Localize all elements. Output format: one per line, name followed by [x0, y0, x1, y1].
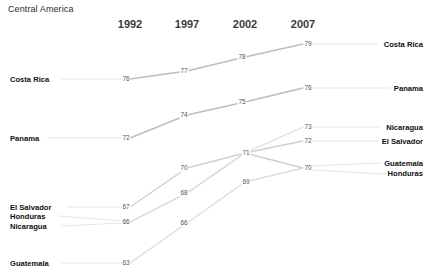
value-label-costa-rica-2002: 78 [237, 54, 246, 61]
series-label-left-costa-rica[interactable]: Costa Rica [10, 75, 49, 85]
leader-left-nicaragua [62, 223, 122, 226]
value-label-honduras-2007: 70 [303, 165, 312, 172]
value-label-el-salvador-1997: 70 [179, 165, 188, 172]
value-label-guatemala-1997: 66 [179, 220, 188, 227]
slope-lines-layer [0, 0, 431, 278]
value-label-panama-1997: 74 [179, 112, 188, 119]
value-label-panama-2002: 75 [237, 99, 246, 106]
leader-left-honduras [58, 216, 122, 221]
value-label-honduras-1997: 68 [179, 190, 188, 197]
series-label-right-nicaragua[interactable]: Nicaragua [386, 123, 423, 133]
series-label-right-el-salvador[interactable]: El Salvador [382, 137, 423, 147]
value-label-costa-rica-1997: 77 [179, 68, 188, 75]
series-label-left-guatemala[interactable]: Guatemala [10, 259, 49, 269]
leader-right-guatemala [312, 163, 381, 166]
series-label-left-honduras[interactable]: Honduras [10, 212, 45, 222]
leader-right-honduras [312, 170, 385, 174]
value-label-panama-2007: 76 [303, 85, 312, 92]
series-line-costa-rica [130, 44, 303, 79]
value-label-el-salvador-2007: 72 [303, 138, 312, 145]
series-line-panama [130, 88, 303, 138]
slope-chart: Central America 1992 1997 2002 2007 [0, 0, 431, 278]
series-label-right-panama[interactable]: Panama [394, 84, 423, 94]
value-label-nicaragua-2007: 73 [303, 124, 312, 131]
series-label-left-nicaragua[interactable]: Nicaragua [10, 222, 47, 232]
value-label-guatemala-2002: 69 [241, 179, 250, 186]
value-label-honduras-1992: 66 [121, 219, 130, 226]
value-label-el-salvador-1992: 67 [121, 204, 130, 211]
series-label-right-honduras[interactable]: Honduras [388, 169, 423, 179]
value-label-costa-rica-1992: 76 [121, 76, 130, 83]
value-label-costa-rica-2007: 79 [303, 41, 312, 48]
value-label-panama-1992: 72 [121, 135, 130, 142]
series-line-honduras [130, 153, 303, 222]
series-label-right-costa-rica[interactable]: Costa Rica [384, 40, 423, 50]
series-label-left-panama[interactable]: Panama [10, 134, 39, 144]
series-label-right-guatemala[interactable]: Guatemala [384, 159, 423, 169]
value-label-el-salvador-2002: 71 [241, 150, 250, 157]
value-label-guatemala-1992: 63 [121, 260, 130, 267]
series-line-guatemala [130, 168, 303, 263]
